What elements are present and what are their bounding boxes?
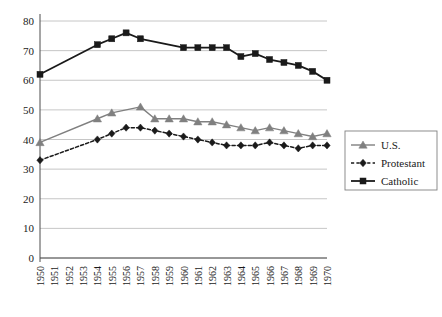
x-tick-label: 1954 <box>92 266 103 286</box>
y-axis-tick-labels: 01020304050607080 <box>23 15 35 264</box>
x-tick-label: 1960 <box>179 266 190 286</box>
data-point-marker <box>109 36 115 42</box>
x-tick-label: 1964 <box>236 266 247 286</box>
y-tick-label: 40 <box>23 134 35 146</box>
x-tick-label: 1961 <box>193 266 204 286</box>
data-point-marker <box>181 45 187 51</box>
data-point-marker <box>224 45 230 51</box>
y-tick-label: 60 <box>23 74 35 86</box>
x-tick-label: 1955 <box>107 266 118 286</box>
x-tick-label: 1963 <box>222 266 233 286</box>
data-point-marker <box>137 36 143 42</box>
chart-legend: U.S.ProtestantCatholic <box>345 131 437 190</box>
x-tick-label: 1965 <box>250 266 261 286</box>
y-tick-label: 0 <box>29 252 35 264</box>
legend-label-protestant: Protestant <box>381 157 425 169</box>
data-point-marker <box>123 30 129 36</box>
x-tick-label: 1968 <box>293 266 304 286</box>
data-point-marker <box>360 178 366 184</box>
x-tick-label: 1966 <box>265 266 276 286</box>
data-point-marker <box>281 59 287 65</box>
x-tick-label: 1953 <box>78 266 89 286</box>
x-tick-label: 1951 <box>49 266 60 286</box>
chart-figure: 01020304050607080 1950195119521953195419… <box>0 0 442 317</box>
y-tick-label: 80 <box>23 15 35 27</box>
x-tick-label: 1950 <box>35 266 46 286</box>
data-point-marker <box>295 62 301 68</box>
data-point-marker <box>310 68 316 74</box>
x-axis-tick-labels: 1950195119521953195419551956195719581959… <box>35 266 333 286</box>
x-tick-label: 1958 <box>150 266 161 286</box>
x-tick-label: 1952 <box>64 266 75 286</box>
x-tick-label: 1959 <box>164 266 175 286</box>
x-tick-label: 1962 <box>207 266 218 286</box>
data-point-marker <box>94 42 100 48</box>
y-tick-label: 10 <box>23 222 35 234</box>
legend-label-u-s-: U.S. <box>381 139 401 151</box>
y-tick-label: 30 <box>23 163 35 175</box>
legend-label-catholic: Catholic <box>381 175 418 187</box>
data-point-marker <box>209 45 215 51</box>
data-point-marker <box>195 45 201 51</box>
x-tick-label: 1970 <box>322 266 333 286</box>
x-tick-label: 1967 <box>279 266 290 286</box>
data-point-marker <box>37 71 43 77</box>
data-point-marker <box>324 77 330 83</box>
data-point-marker <box>238 54 244 60</box>
data-point-marker <box>267 57 273 63</box>
y-tick-label: 20 <box>23 193 35 205</box>
y-tick-label: 70 <box>23 45 35 57</box>
line-chart: 01020304050607080 1950195119521953195419… <box>0 0 442 317</box>
x-tick-label: 1969 <box>308 266 319 286</box>
x-tick-label: 1956 <box>121 266 132 286</box>
y-tick-label: 50 <box>23 104 35 116</box>
data-point-marker <box>252 51 258 57</box>
x-tick-label: 1957 <box>135 266 146 286</box>
